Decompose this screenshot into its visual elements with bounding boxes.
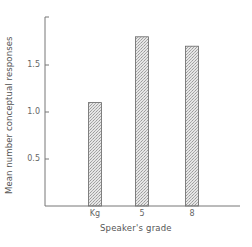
x-tick-label: 5 xyxy=(130,209,154,218)
bar-chart: 0.51.01.5 Kg58 Mean number conceptual re… xyxy=(0,0,252,247)
bars-group xyxy=(89,37,199,206)
y-axis-label: Mean number conceptual responses xyxy=(4,36,14,194)
x-axis-label: Speaker's grade xyxy=(100,223,172,233)
plot-area xyxy=(0,0,252,247)
bar-kg xyxy=(89,103,102,206)
y-tick-label: 1.5 xyxy=(16,60,40,69)
y-ticks xyxy=(45,65,49,159)
x-tick-label: Kg xyxy=(83,209,107,218)
y-tick-label: 1.0 xyxy=(16,107,40,116)
bar-8 xyxy=(186,46,199,206)
y-tick-label: 0.5 xyxy=(16,154,40,163)
x-tick-label: 8 xyxy=(180,209,204,218)
bar-5 xyxy=(136,37,149,206)
